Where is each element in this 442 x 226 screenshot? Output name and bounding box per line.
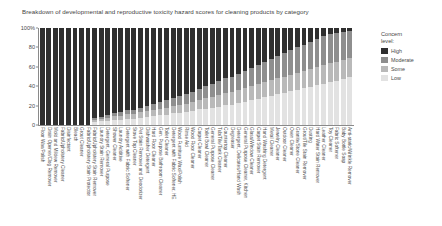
bar-stack[interactable] — [288, 28, 293, 125]
bar-stack[interactable] — [321, 28, 326, 125]
bar-stack[interactable] — [275, 28, 280, 125]
bar-stack[interactable] — [105, 28, 110, 125]
legend-item[interactable]: Low — [381, 75, 421, 81]
x-axis-tick-label: Hard Floor Cleaner — [150, 127, 155, 167]
bar-segment-some — [341, 60, 346, 79]
bar-stack[interactable] — [118, 28, 123, 125]
bar-stack[interactable] — [112, 28, 117, 125]
bar-stack[interactable] — [282, 28, 287, 125]
bar-segment-low — [249, 100, 254, 125]
bar-segment-moderate — [256, 65, 261, 84]
x-axis-tick-label: Dusting — [307, 127, 312, 143]
legend-item[interactable]: High — [381, 48, 421, 54]
x-axis-tick-label: Carpet Stain Remover — [255, 127, 260, 173]
bar-stack[interactable] — [243, 28, 248, 125]
bar-stack[interactable] — [216, 28, 221, 125]
x-axis-tick-label: Wood Floor Cleaner — [190, 127, 195, 169]
bar-stack[interactable] — [53, 28, 58, 125]
bar-segment-moderate — [295, 47, 300, 72]
bar-stack[interactable] — [59, 28, 64, 125]
bar-segment-high — [275, 28, 280, 56]
bar-segment-low — [158, 115, 163, 125]
bar-segment-high — [190, 28, 195, 92]
bar-stack[interactable] — [177, 28, 182, 125]
bar-stack[interactable] — [73, 28, 78, 125]
bar-stack[interactable] — [341, 28, 346, 125]
bar-segment-high — [59, 28, 64, 125]
bar-stack[interactable] — [308, 28, 313, 125]
bar-stack[interactable] — [236, 28, 241, 125]
bar-stack[interactable] — [190, 28, 195, 125]
bar-stack[interactable] — [99, 28, 104, 125]
bar-segment-moderate — [184, 94, 189, 104]
bar-segment-low — [321, 84, 326, 125]
bar-segment-high — [308, 28, 313, 42]
bar-stack[interactable] — [347, 28, 352, 125]
bar-stack[interactable] — [66, 28, 71, 125]
x-axis-tick-label: Fabric/Upholstery Stain Protector — [85, 127, 90, 196]
bar-segment-high — [86, 28, 91, 125]
bar-stack[interactable] — [197, 28, 202, 125]
x-axis-tick-label: Mold and Mildew Remover — [52, 127, 57, 183]
bar-segment-high — [151, 28, 156, 104]
bar-stack[interactable] — [315, 28, 320, 125]
bar-segment-moderate — [203, 86, 208, 98]
bar-stack[interactable] — [269, 28, 274, 125]
bar-stack[interactable] — [249, 28, 254, 125]
y-axis-tick-mark — [36, 125, 38, 126]
bar-stack[interactable] — [40, 28, 45, 125]
x-axis-tick-label: Detergent with Fabric Softener — [124, 127, 129, 191]
bar-segment-high — [321, 28, 326, 36]
bar-segment-some — [190, 102, 195, 112]
bar-segment-some — [295, 73, 300, 90]
bar-stack[interactable] — [158, 28, 163, 125]
bar-stack[interactable] — [334, 28, 339, 125]
chart-figure: Breakdown of developmental and reproduct… — [0, 0, 442, 226]
bar-segment-moderate — [347, 31, 352, 58]
bar-stack[interactable] — [295, 28, 300, 125]
bar-segment-some — [315, 67, 320, 85]
bar-segment-high — [249, 28, 254, 68]
bar-stack[interactable] — [262, 28, 267, 125]
bar-segment-some — [243, 88, 248, 102]
bar-stack[interactable] — [145, 28, 150, 125]
bar-stack[interactable] — [210, 28, 215, 125]
legend-item[interactable]: Some — [381, 66, 421, 72]
x-axis-tick-label: Toy Cleaner — [327, 127, 332, 152]
bar-segment-high — [269, 28, 274, 59]
bar-stack[interactable] — [223, 28, 228, 125]
bar-segment-some — [256, 84, 261, 99]
bar-stack[interactable] — [79, 28, 84, 125]
bar-stack[interactable] — [230, 28, 235, 125]
bar-stack[interactable] — [164, 28, 169, 125]
bar-segment-high — [105, 28, 110, 115]
bar-stack[interactable] — [151, 28, 156, 125]
bar-stack[interactable] — [171, 28, 176, 125]
bar-stack[interactable] — [86, 28, 91, 125]
x-axis-tick-label: Metal Cleaner — [268, 127, 273, 156]
bar-stack[interactable] — [302, 28, 307, 125]
bar-segment-high — [118, 28, 123, 112]
bar-stack[interactable] — [203, 28, 208, 125]
bar-stack[interactable] — [92, 28, 97, 125]
bar-stack[interactable] — [256, 28, 261, 125]
bar-stack[interactable] — [131, 28, 136, 125]
legend-item[interactable]: Moderate — [381, 57, 421, 63]
bar-segment-high — [315, 28, 320, 39]
bar-stack[interactable] — [138, 28, 143, 125]
bar-segment-moderate — [210, 84, 215, 97]
x-axis-tick-label: Baby Bottle Soap — [340, 127, 345, 163]
bar-segment-some — [334, 62, 339, 81]
bar-stack[interactable] — [184, 28, 189, 125]
bar-segment-some — [210, 97, 215, 108]
bar-segment-low — [269, 96, 274, 125]
bar-segment-moderate — [262, 62, 267, 82]
bar-stack[interactable] — [125, 28, 130, 125]
bar-stack[interactable] — [46, 28, 51, 125]
bar-segment-high — [79, 28, 84, 125]
bar-segment-high — [171, 28, 176, 98]
bar-segment-low — [223, 105, 228, 125]
bar-stack[interactable] — [328, 28, 333, 125]
bar-segment-high — [288, 28, 293, 50]
bar-segment-low — [125, 119, 130, 125]
